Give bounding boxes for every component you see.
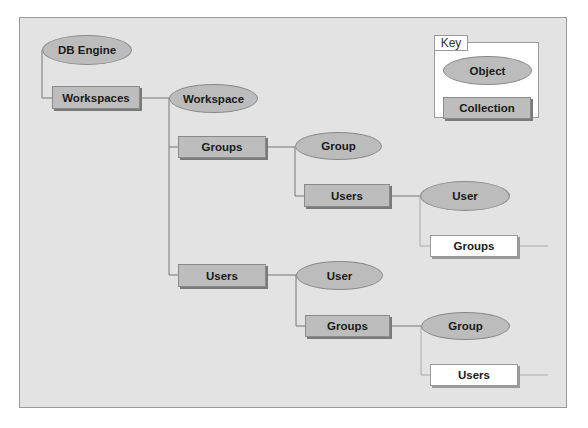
node-users-collection: Users bbox=[178, 264, 266, 287]
node-db-engine: DB Engine bbox=[42, 35, 132, 65]
node-groups-collection: Groups bbox=[178, 136, 266, 158]
node-user-groups-collection: Groups bbox=[305, 315, 390, 337]
legend-collection: Collection bbox=[443, 97, 531, 119]
node-group: Group bbox=[295, 132, 382, 160]
legend-title: Key bbox=[434, 35, 468, 51]
node-workspace: Workspace bbox=[169, 84, 258, 113]
node-group-users-external: Users bbox=[430, 364, 518, 386]
node-group-users-collection: Users bbox=[304, 184, 390, 207]
node-user: User bbox=[420, 181, 510, 211]
node-user-groups-external: Groups bbox=[430, 235, 518, 257]
node-group-2: Group bbox=[421, 312, 510, 340]
node-user-2: User bbox=[296, 261, 383, 290]
node-workspaces-collection: Workspaces bbox=[52, 86, 140, 109]
legend-object: Object bbox=[443, 56, 532, 85]
